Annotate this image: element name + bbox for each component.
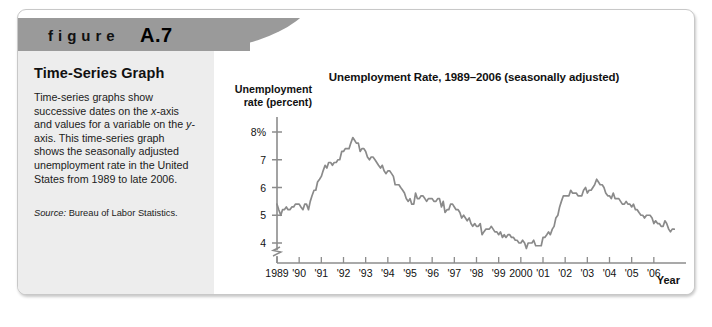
figure-header-bar: figure A.7 xyxy=(18,18,318,51)
x-tick-label: 2000 xyxy=(509,267,533,279)
x-tick-label: '06 xyxy=(647,267,661,279)
caption-panel: Time-Series Graph Time-series graphs sho… xyxy=(18,51,214,294)
x-tick-label: '95 xyxy=(403,267,417,279)
x-tick-label: '97 xyxy=(447,267,461,279)
y-tick-label: 6 xyxy=(260,182,266,194)
y-tick-label: 7 xyxy=(260,154,266,166)
figure-label-number: A.7 xyxy=(140,24,173,47)
x-tick-label: '99 xyxy=(492,267,506,279)
x-tick-label: '90 xyxy=(292,267,306,279)
y-tick-label: 5 xyxy=(260,209,266,221)
x-tick-label: '03 xyxy=(580,267,594,279)
header-bar-taper xyxy=(250,18,318,51)
x-tick-label: '93 xyxy=(359,267,373,279)
unemployment-rate-line xyxy=(277,138,674,249)
unemployment-line-chart: 8%76541989'90'91'92'93'94'95'96'97'98'99… xyxy=(214,51,695,295)
source-label: Source: xyxy=(34,208,66,218)
source-text: Bureau of Labor Statistics. xyxy=(66,208,178,218)
x-tick-label: '98 xyxy=(470,267,484,279)
caption-title: Time-Series Graph xyxy=(34,65,210,81)
caption-body: Time-series graphs show successive dates… xyxy=(34,91,196,186)
y-tick-label: 8% xyxy=(251,126,266,138)
x-tick-label: '02 xyxy=(558,267,572,279)
x-tick-label: 1989 xyxy=(265,267,289,279)
figure-card: figure A.7 Time-Series Graph Time-series… xyxy=(17,9,695,295)
x-tick-label: '04 xyxy=(603,267,617,279)
caption-source: Source: Bureau of Labor Statistics. xyxy=(34,208,212,218)
figure-label-word: figure xyxy=(48,27,120,44)
chart-area: Unemployment Rate, 1989–2006 (seasonally… xyxy=(214,51,694,294)
y-tick-label: 4 xyxy=(260,237,266,249)
x-tick-label: '96 xyxy=(425,267,439,279)
x-tick-label: '91 xyxy=(314,267,328,279)
x-tick-label: '94 xyxy=(381,267,395,279)
x-tick-label: '01 xyxy=(536,267,550,279)
x-tick-label: '92 xyxy=(337,267,351,279)
x-tick-label: '05 xyxy=(625,267,639,279)
